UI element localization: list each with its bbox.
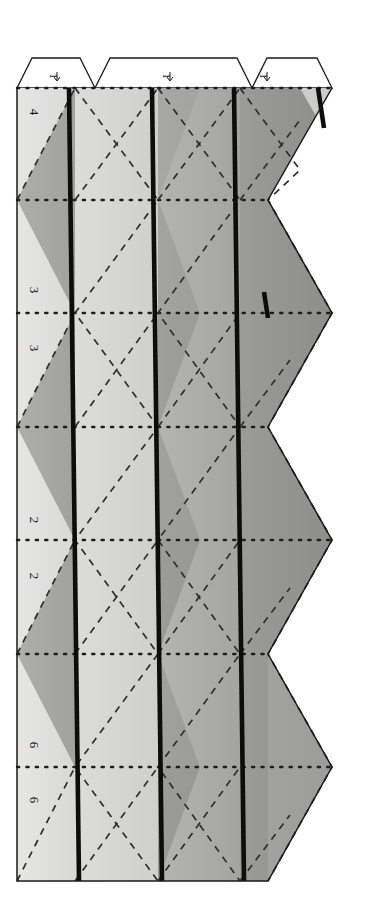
fold-label-3b: 3	[27, 345, 42, 352]
svg-text:1: 1	[161, 73, 173, 79]
fold-label-4: 4	[27, 109, 42, 116]
fold-label-6b: 6	[27, 797, 42, 804]
glue-tab-row	[17, 58, 332, 88]
fold-label-6a: 6	[27, 742, 42, 749]
fold-label-2a: 2	[27, 517, 42, 524]
svg-text:1: 1	[48, 73, 60, 79]
polyhedron-net-diagram: 4 3 3 2 2 6 6 1 1 1	[0, 0, 366, 915]
fold-label-3a: 3	[27, 287, 42, 294]
panel-column-2	[75, 88, 158, 881]
fold-label-2b: 2	[27, 573, 42, 580]
svg-text:1: 1	[258, 73, 270, 79]
